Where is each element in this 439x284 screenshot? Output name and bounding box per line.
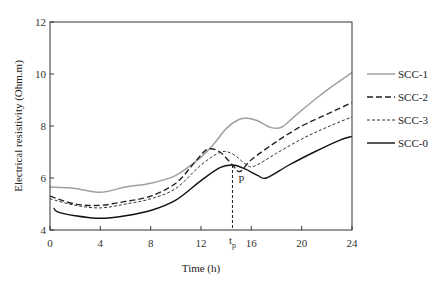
y-tick-label: 10 <box>35 68 47 80</box>
y-tick-label: 12 <box>35 16 46 28</box>
series-line-scc-3 <box>50 117 352 208</box>
y-tick-label: 8 <box>41 120 47 132</box>
series-line-scc-2 <box>50 103 352 206</box>
legend: SCC-1SCC-2SCC-3SCC-0 <box>367 68 428 149</box>
x-tick-label: 16 <box>246 237 258 249</box>
y-tick-label: 4 <box>41 224 47 236</box>
x-tick-label: 8 <box>148 237 154 249</box>
plot-area: P <box>50 73 352 230</box>
plot-frame <box>50 22 352 230</box>
x-tick-label: 4 <box>98 237 104 249</box>
legend-label-scc-3: SCC-3 <box>398 114 428 126</box>
series-line-scc-1 <box>50 73 352 193</box>
x-tick-label: 24 <box>347 237 359 249</box>
axes: 048121620244681012tp <box>35 16 358 250</box>
legend-label-scc-2: SCC-2 <box>398 91 428 103</box>
x-axis-label: Time (h) <box>182 262 221 275</box>
legend-label-scc-1: SCC-1 <box>398 68 428 80</box>
annotation-p: P <box>238 173 244 185</box>
x-tick-label: 0 <box>47 237 53 249</box>
legend-label-scc-0: SCC-0 <box>398 137 428 149</box>
y-axis-label: Electrical resistivity (Ohm.m) <box>12 60 25 192</box>
line-chart: P 048121620244681012tp SCC-1SCC-2SCC-3SC… <box>0 0 439 284</box>
annotation-tp: tp <box>229 234 236 250</box>
x-tick-label: 20 <box>296 237 308 249</box>
x-tick-label: 12 <box>196 237 207 249</box>
y-tick-label: 6 <box>41 172 47 184</box>
